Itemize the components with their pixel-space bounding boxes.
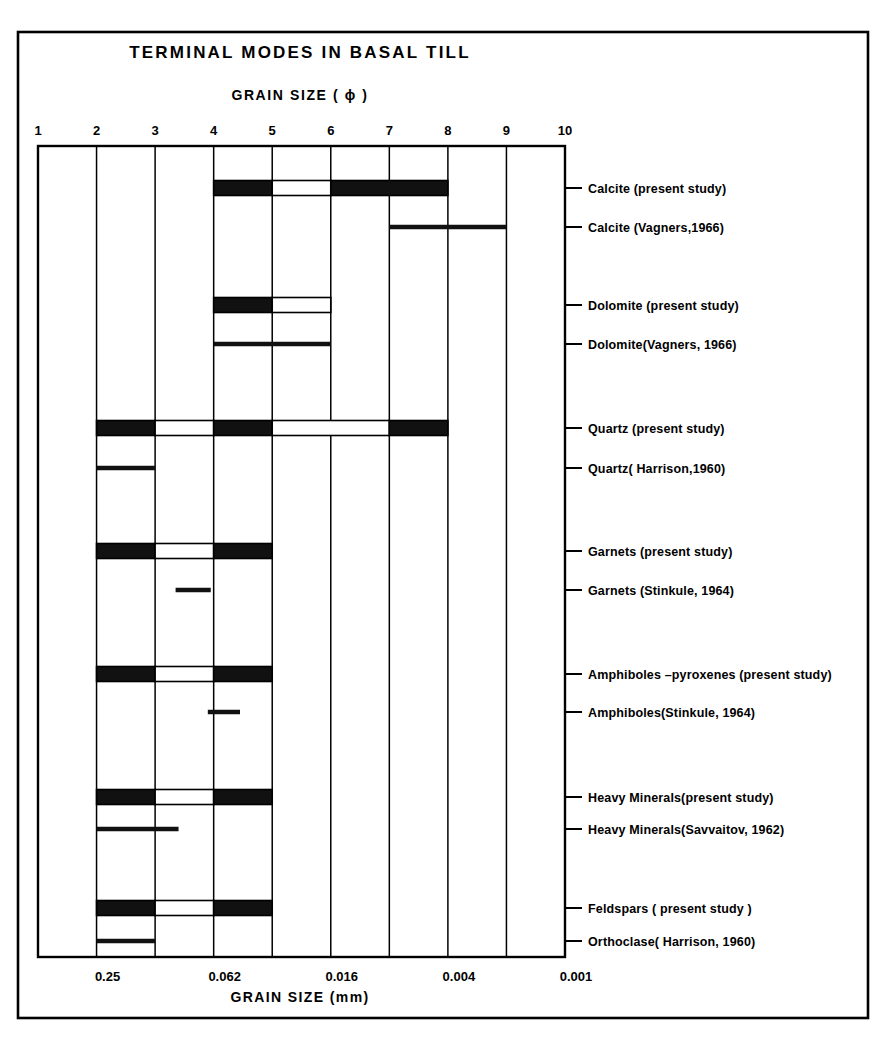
top-tick-label-4: 4 <box>210 123 218 138</box>
bar-segment-solid <box>214 790 273 805</box>
bottom-tick-label-0.004: 0.004 <box>443 969 476 984</box>
bar-segment-solid <box>97 901 156 916</box>
bar-segment-hollow <box>272 298 331 313</box>
series-label: Heavy Minerals(present study) <box>588 791 774 805</box>
bar-segment-hollow <box>155 421 214 436</box>
series-label-group: Calcite (present study) <box>565 182 726 196</box>
top-tick-label-9: 9 <box>503 123 510 138</box>
bottom-tick-label-0.001: 0.001 <box>560 969 593 984</box>
top-tick-label-1: 1 <box>34 123 41 138</box>
title-group: TERMINAL MODES IN BASAL TILLGRAIN SIZE (… <box>129 43 470 103</box>
bottom-tick-label-0.062: 0.062 <box>208 969 241 984</box>
bottom-axis-ticks: 0.250.0620.0160.0040.001GRAIN SIZE (mm) <box>95 969 592 1005</box>
terminal-modes-chart: TERMINAL MODES IN BASAL TILLGRAIN SIZE (… <box>0 0 886 1050</box>
series-row <box>97 667 273 682</box>
bar-segment-hollow <box>272 421 389 436</box>
series-row <box>97 544 273 559</box>
bar-segment-solid <box>214 667 273 682</box>
series-row <box>208 710 240 715</box>
series-label-group: Heavy Minerals(present study) <box>565 791 774 805</box>
series-label: Feldspars ( present study ) <box>588 902 752 916</box>
bar-segment-solid <box>97 790 156 805</box>
series-row <box>214 342 331 347</box>
bar-segment-solid <box>97 667 156 682</box>
bar-segment-solid <box>214 181 273 196</box>
bar-segment-solid <box>389 421 448 436</box>
page-title: TERMINAL MODES IN BASAL TILL <box>129 43 470 62</box>
bar-segment-solid <box>331 181 448 196</box>
top-tick-label-2: 2 <box>93 123 100 138</box>
bar-segment-hollow <box>155 790 214 805</box>
series-row <box>97 827 179 832</box>
bar-segment-solid <box>97 421 156 436</box>
figure-root: TERMINAL MODES IN BASAL TILLGRAIN SIZE (… <box>0 0 886 1050</box>
bar-line-segment <box>214 342 331 347</box>
series-label-group: Calcite (Vagners,1966) <box>565 221 724 235</box>
bar-line-segment <box>176 588 211 593</box>
series-label: Heavy Minerals(Savvaitov, 1962) <box>588 823 784 837</box>
bar-line-segment <box>389 225 506 230</box>
series-row <box>176 588 211 593</box>
top-tick-label-7: 7 <box>386 123 393 138</box>
bar-line-segment <box>97 466 156 471</box>
series-label: Amphiboles(Stinkule, 1964) <box>588 706 755 720</box>
series-label: Garnets (present study) <box>588 545 732 559</box>
top-axis-title: GRAIN SIZE ( ϕ ) <box>231 87 368 103</box>
bar-segment-hollow <box>272 181 331 196</box>
bar-segment-solid <box>214 421 273 436</box>
bar-line-segment <box>97 939 156 944</box>
series-label-group: Quartz (present study) <box>565 422 725 436</box>
series-label-group: Feldspars ( present study ) <box>565 902 752 916</box>
bottom-tick-label-0.25: 0.25 <box>95 969 120 984</box>
series-row <box>214 298 331 313</box>
series-label: Garnets (Stinkule, 1964) <box>588 584 734 598</box>
series-label-group: Heavy Minerals(Savvaitov, 1962) <box>565 823 784 837</box>
bar-segment-hollow <box>155 544 214 559</box>
bottom-axis-title: GRAIN SIZE (mm) <box>230 989 369 1005</box>
series-row <box>97 466 156 471</box>
bar-segment-solid <box>97 544 156 559</box>
series-row <box>214 181 448 196</box>
bar-segment-solid <box>214 298 273 313</box>
top-tick-label-8: 8 <box>444 123 451 138</box>
series-label: Orthoclase( Harrison, 1960) <box>588 935 755 949</box>
top-tick-label-6: 6 <box>327 123 334 138</box>
series-labels: Calcite (present study)Calcite (Vagners,… <box>565 182 832 949</box>
bar-segment-solid <box>214 901 273 916</box>
series-label-group: Orthoclase( Harrison, 1960) <box>565 935 755 949</box>
series-label-group: Amphiboles(Stinkule, 1964) <box>565 706 755 720</box>
series-label: Quartz (present study) <box>588 422 725 436</box>
series-row <box>97 790 273 805</box>
series-row <box>97 421 448 436</box>
series-label-group: Garnets (Stinkule, 1964) <box>565 584 734 598</box>
series-label-group: Garnets (present study) <box>565 545 732 559</box>
series-label: Amphiboles –pyroxenes (present study) <box>588 668 832 682</box>
bar-segment-solid <box>214 544 273 559</box>
series-label-group: Dolomite(Vagners, 1966) <box>565 338 737 352</box>
series-label: Dolomite(Vagners, 1966) <box>588 338 737 352</box>
bar-segment-hollow <box>155 901 214 916</box>
top-tick-label-10: 10 <box>558 123 572 138</box>
series-label-group: Quartz( Harrison,1960) <box>565 462 725 476</box>
series-label: Calcite (Vagners,1966) <box>588 221 724 235</box>
series-label-group: Amphiboles –pyroxenes (present study) <box>565 668 832 682</box>
top-tick-label-3: 3 <box>151 123 158 138</box>
series-label: Calcite (present study) <box>588 182 726 196</box>
series-row <box>389 225 506 230</box>
series-label-group: Dolomite (present study) <box>565 299 739 313</box>
bar-line-segment <box>97 827 179 832</box>
series-row <box>97 901 273 916</box>
top-axis-ticks: 12345678910 <box>34 123 572 138</box>
bar-line-segment <box>208 710 240 715</box>
series-label: Quartz( Harrison,1960) <box>588 462 725 476</box>
bottom-tick-label-0.016: 0.016 <box>326 969 359 984</box>
series-row <box>97 939 156 944</box>
series-label: Dolomite (present study) <box>588 299 739 313</box>
top-tick-label-5: 5 <box>269 123 276 138</box>
bar-segment-hollow <box>155 667 214 682</box>
